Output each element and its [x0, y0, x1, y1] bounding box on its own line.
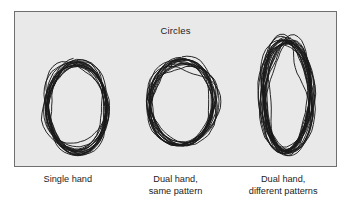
caption-dual-hand-same-pattern: Dual hand, same pattern — [122, 172, 230, 197]
caption-line: Dual hand, — [229, 174, 337, 186]
figure-root: Circles Single hand Dual hand, same patt… — [0, 0, 351, 209]
caption-line: same pattern — [122, 186, 230, 198]
caption-dual-hand-different-patterns: Dual hand, different patterns — [229, 172, 337, 197]
caption-line: Single hand — [14, 174, 122, 186]
caption-line: different patterns — [229, 186, 337, 198]
scribble-drawing-dual-hand-same-pattern — [123, 12, 230, 166]
scribble-path — [41, 58, 109, 155]
scribble-drawing-single-hand — [15, 12, 123, 166]
scribble-trace-icon — [230, 12, 338, 166]
scribble-trace-icon — [15, 12, 123, 166]
caption-line: Dual hand, — [122, 174, 230, 186]
plot-panel: Circles — [14, 11, 337, 167]
scribble-path — [258, 34, 316, 155]
scribble-trace-icon — [123, 12, 230, 166]
scribble-drawing-dual-hand-different-patterns — [230, 12, 338, 166]
caption-single-hand: Single hand — [14, 172, 122, 186]
caption-row: Single hand Dual hand, same pattern Dual… — [14, 172, 337, 206]
scribble-path — [146, 56, 220, 146]
